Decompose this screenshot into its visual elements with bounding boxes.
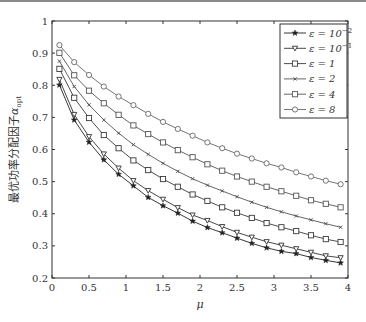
legend-label: ε = 8 <box>309 104 335 115</box>
star-marker-icon <box>190 218 196 223</box>
circle-marker-icon <box>220 146 225 151</box>
circle-marker-icon <box>131 103 136 108</box>
star-marker-icon <box>249 240 255 245</box>
square-marker-icon <box>264 184 269 189</box>
square-marker-icon <box>338 239 343 244</box>
star-marker-icon <box>264 245 270 250</box>
circle-marker-icon <box>72 60 77 65</box>
x-tick-label: 1 <box>123 282 129 293</box>
square-marker-icon <box>72 95 77 100</box>
circle-marker-icon <box>308 174 313 179</box>
x-tick-label: 2.5 <box>229 282 245 293</box>
circle-marker-icon <box>101 84 106 89</box>
triangle-down-marker-icon <box>205 218 210 223</box>
circle-marker-icon <box>57 42 62 47</box>
x-tick-label: 0.5 <box>81 282 97 293</box>
star-marker-icon <box>205 225 211 230</box>
x-tick-label: 3.5 <box>303 282 319 293</box>
square-marker-icon <box>116 112 121 117</box>
legend-label: ε = 4 <box>309 89 335 100</box>
circle-marker-icon <box>116 94 121 99</box>
y-axis-label-subscript: opt <box>15 96 23 108</box>
square-marker-icon <box>294 193 299 198</box>
legend-label: ε = 1 <box>309 58 335 69</box>
circle-marker-icon <box>338 182 343 187</box>
circle-marker-icon <box>146 111 151 116</box>
y-tick-label: 0.5 <box>32 176 48 187</box>
x-tick-label: 2 <box>197 282 203 293</box>
square-marker-icon <box>249 215 254 220</box>
circle-marker-icon <box>292 107 297 112</box>
square-marker-icon <box>323 237 328 242</box>
square-marker-icon <box>146 131 151 136</box>
triangle-down-marker-icon <box>131 179 136 184</box>
square-marker-icon <box>323 201 328 206</box>
square-marker-icon <box>220 205 225 210</box>
square-marker-icon <box>294 228 299 233</box>
x-tick-label: 0 <box>49 282 55 293</box>
square-marker-icon <box>175 148 180 153</box>
circle-marker-icon <box>205 140 210 145</box>
x-tick-label: 4 <box>345 282 351 293</box>
square-marker-icon <box>116 146 121 151</box>
y-tick-label: 0.8 <box>32 80 48 91</box>
star-marker-icon <box>279 248 285 253</box>
x-marker-icon <box>147 153 150 156</box>
x-axis-label: μ <box>196 298 203 311</box>
square-marker-icon <box>160 176 165 181</box>
x-tick-label: 1.5 <box>155 282 171 293</box>
y-tick-label: 1 <box>42 16 48 27</box>
square-marker-icon <box>292 92 297 97</box>
star-marker-icon <box>160 203 166 208</box>
circle-marker-icon <box>264 161 269 166</box>
square-marker-icon <box>338 205 343 210</box>
triangle-down-marker-icon <box>160 197 165 202</box>
square-marker-icon <box>205 198 210 203</box>
square-marker-icon <box>292 61 297 66</box>
triangle-down-marker-icon <box>175 206 180 211</box>
square-marker-icon <box>57 50 62 55</box>
square-marker-icon <box>86 115 91 120</box>
y-axis-label-main: 最优功率分配因子 <box>7 115 21 203</box>
y-tick-label: 0.4 <box>32 208 48 219</box>
x-marker-icon <box>87 103 90 106</box>
legend: ε = 10−2ε = 10−1ε = 1ε = 2ε = 4ε = 8 <box>280 24 352 118</box>
triangle-down-marker-icon <box>57 77 62 82</box>
circle-marker-icon <box>323 178 328 183</box>
x-marker-icon <box>102 118 105 121</box>
circle-marker-icon <box>86 72 91 77</box>
square-marker-icon <box>57 66 62 71</box>
star-marker-icon <box>234 235 240 240</box>
circle-marker-icon <box>279 165 284 170</box>
x-marker-icon <box>58 60 61 63</box>
circle-marker-icon <box>249 156 254 161</box>
square-marker-icon <box>101 101 106 106</box>
square-marker-icon <box>101 132 106 137</box>
circle-marker-icon <box>190 133 195 138</box>
circle-marker-icon <box>294 170 299 175</box>
square-marker-icon <box>72 73 77 78</box>
square-marker-icon <box>220 168 225 173</box>
square-marker-icon <box>131 123 136 128</box>
x-marker-icon <box>117 132 120 135</box>
square-marker-icon <box>279 189 284 194</box>
square-marker-icon <box>234 174 239 179</box>
square-marker-icon <box>190 155 195 160</box>
square-marker-icon <box>175 184 180 189</box>
svg-text:最优功率分配因子αopt: 最优功率分配因子αopt <box>7 96 23 203</box>
triangle-down-marker-icon <box>338 256 343 261</box>
circle-marker-icon <box>175 126 180 131</box>
star-marker-icon <box>219 230 225 235</box>
square-marker-icon <box>160 140 165 145</box>
y-tick-label: 0.2 <box>32 273 48 284</box>
square-marker-icon <box>205 162 210 167</box>
square-marker-icon <box>146 167 151 172</box>
y-tick-label: 0.9 <box>32 48 48 59</box>
circle-marker-icon <box>160 119 165 124</box>
square-marker-icon <box>279 225 284 230</box>
x-tick-label: 3 <box>271 282 277 293</box>
line-chart: 00.511.522.533.54 0.20.30.40.50.60.70.80… <box>0 0 366 322</box>
triangle-down-marker-icon <box>146 189 151 194</box>
square-marker-icon <box>308 198 313 203</box>
x-marker-icon <box>161 162 164 165</box>
